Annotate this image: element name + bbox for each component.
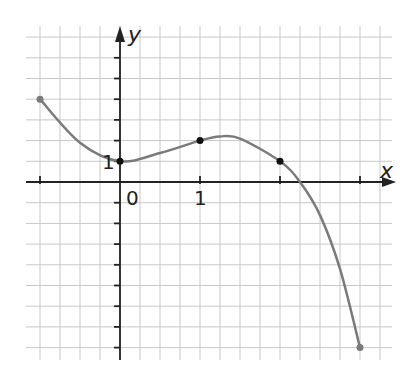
grid [26, 26, 392, 360]
data-point [37, 96, 44, 103]
data-point [277, 158, 284, 165]
origin-label: 0 [126, 186, 139, 210]
data-point [197, 137, 204, 144]
y-axis-label: y [128, 22, 141, 47]
data-point [357, 344, 364, 351]
x-tick-label-1: 1 [194, 186, 207, 210]
y-tick-label-1: 1 [102, 150, 115, 174]
x-axis-label: x [380, 158, 393, 183]
data-point [117, 158, 124, 165]
